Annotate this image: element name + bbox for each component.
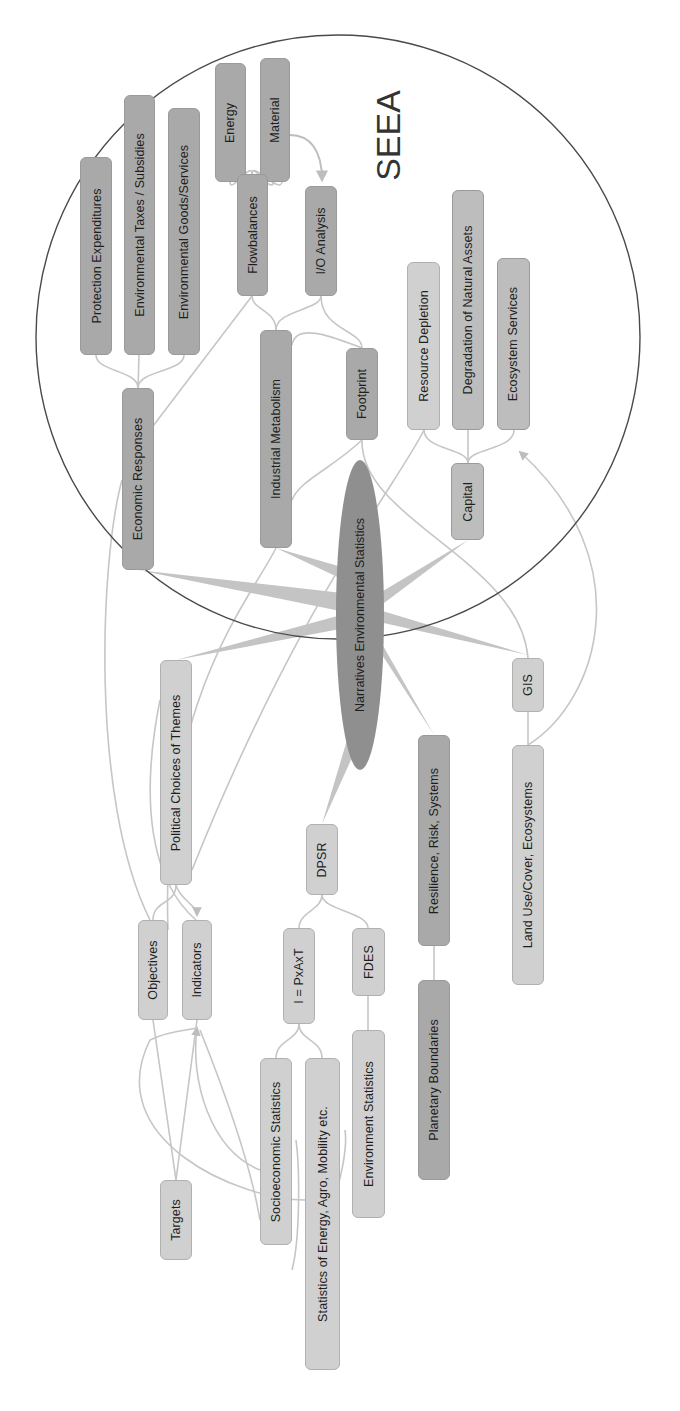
node-flowbalances[interactable]: Flowbalances (237, 174, 268, 296)
center-spokes (138, 540, 528, 824)
node-io-analysis[interactable]: I/O Analysis (305, 186, 337, 296)
node-indicators[interactable]: Indicators (182, 920, 212, 1020)
node-statistics-energy[interactable]: Statistics of Energy, Agro, Mobility etc… (305, 1058, 340, 1370)
node-environmental-goods[interactable]: Environmental Goods/Services (168, 108, 200, 355)
node-ipat[interactable]: I = PxAxT (283, 928, 315, 1024)
node-protection-expenditures[interactable]: Protection Expenditures (80, 157, 112, 355)
seea-label: SEEA (358, 95, 418, 175)
node-ecosystem-services[interactable]: Ecosystem Services (497, 258, 530, 430)
node-resilience[interactable]: Resilience, Risk, Systems (418, 735, 450, 946)
node-objectives[interactable]: Objectives (138, 920, 168, 1020)
node-planetary-boundaries[interactable]: Planetary Boundaries (418, 980, 450, 1180)
node-political-choices[interactable]: Political Choices of Themes (160, 660, 192, 885)
node-socioeconomic[interactable]: Socioeconomic Statistics (260, 1058, 292, 1245)
node-fdes[interactable]: FDES (352, 928, 385, 996)
node-industrial-metabolism[interactable]: Industrial Metabolism (260, 330, 292, 548)
center-node-label: Narratives Environmental Statistics (353, 518, 367, 712)
node-footprint[interactable]: Footprint (346, 348, 378, 440)
node-energy[interactable]: Energy (215, 63, 246, 182)
node-degradation[interactable]: Degradation of Natural Assets (452, 190, 484, 430)
node-gis[interactable]: GIS (512, 658, 544, 712)
node-economic-responses[interactable]: Economic Responses (122, 388, 154, 570)
node-targets[interactable]: Targets (160, 1180, 192, 1260)
node-material[interactable]: Material (260, 58, 290, 182)
node-dpsr[interactable]: DPSR (306, 824, 338, 895)
center-node[interactable]: Narratives Environmental Statistics (336, 470, 384, 760)
node-land-use[interactable]: Land Use/Cover, Ecosystems (512, 745, 544, 985)
node-capital[interactable]: Capital (451, 463, 484, 540)
node-environment-statistics[interactable]: Environment Statistics (352, 1030, 385, 1218)
node-environmental-taxes[interactable]: Environmental Taxes / Subsidies (124, 95, 155, 355)
node-resource-depletion[interactable]: Resource Depletion (407, 262, 440, 430)
